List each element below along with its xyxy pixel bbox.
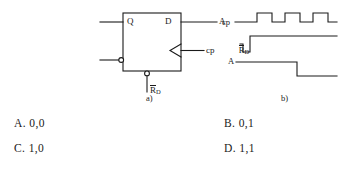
rd-waveform [240, 36, 337, 52]
choice-b[interactable]: B. 0,1 [224, 118, 254, 130]
pin-label-q: Q [127, 17, 134, 26]
reset-label-subscript-d: D [156, 88, 161, 95]
waveform-label-rd: RD [239, 45, 249, 55]
pin-label-d: D [165, 17, 172, 26]
a-waveform [236, 62, 337, 76]
cp-waveform [235, 13, 337, 22]
caption-a: a) [146, 94, 153, 103]
clock-label-cp: cp [206, 46, 215, 55]
reset-bubble [145, 71, 150, 76]
choice-a-key: A. [14, 117, 26, 129]
choice-c[interactable]: C. 1,0 [14, 143, 44, 155]
choice-d-key: D. [224, 142, 236, 154]
choice-d-value: 1,1 [239, 142, 255, 154]
figure-page: Q D A cp RD a) cp RD A b) A. 0,0 B. 0,1 … [0, 0, 339, 169]
clock-triangle [170, 44, 181, 57]
caption-b: b) [281, 94, 288, 103]
choice-a-value: 0,0 [29, 117, 45, 129]
choice-a[interactable]: A. 0,0 [14, 118, 45, 130]
choice-c-key: C. [14, 142, 25, 154]
waveform-label-cp: cp [222, 18, 230, 27]
choice-b-value: 0,1 [239, 117, 255, 129]
choice-c-value: 1,0 [29, 142, 45, 154]
lower-input-bubble [119, 58, 124, 63]
choice-d[interactable]: D. 1,1 [224, 143, 255, 155]
waveform-label-subscript-d: D [244, 48, 249, 55]
waveform-label-a: A [228, 57, 234, 66]
choice-b-key: B. [224, 117, 235, 129]
